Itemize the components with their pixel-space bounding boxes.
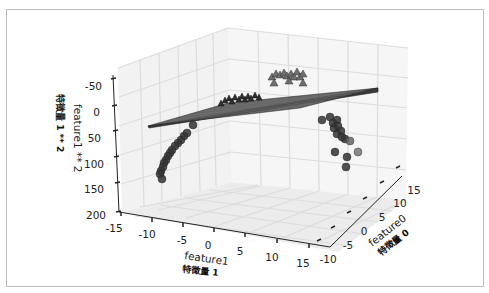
svg-text:0: 0 bbox=[361, 225, 368, 237]
svg-text:200: 200 bbox=[86, 209, 106, 221]
svg-text:0: 0 bbox=[205, 239, 212, 251]
back-panes bbox=[118, 28, 408, 252]
svg-text:0: 0 bbox=[93, 106, 100, 118]
plot-3d: -50 0 50 100 150 200 feature1 ** 2 特徴量 1… bbox=[0, 0, 489, 293]
svg-text:10: 10 bbox=[393, 197, 406, 209]
svg-text:15: 15 bbox=[296, 257, 309, 269]
svg-text:50: 50 bbox=[88, 132, 101, 144]
z-axis-label: feature1 ** 2 bbox=[72, 104, 84, 172]
svg-text:-50: -50 bbox=[85, 80, 102, 92]
svg-text:-5: -5 bbox=[343, 239, 353, 251]
svg-text:-5: -5 bbox=[177, 234, 187, 246]
svg-text:10: 10 bbox=[265, 251, 278, 263]
svg-text:5: 5 bbox=[379, 211, 386, 223]
svg-text:-10: -10 bbox=[138, 228, 155, 240]
svg-text:15: 15 bbox=[407, 184, 420, 196]
svg-text:5: 5 bbox=[237, 245, 244, 257]
svg-text:-15: -15 bbox=[105, 222, 122, 234]
z-axis-label-sub: 特徴量 1 ** 2 bbox=[55, 94, 66, 152]
z-axis: -50 0 50 100 150 200 feature1 ** 2 特徴量 1… bbox=[55, 75, 121, 221]
x-axis-label-sub: 特徴量 1 bbox=[182, 263, 219, 278]
svg-text:100: 100 bbox=[84, 158, 104, 170]
svg-text:150: 150 bbox=[84, 183, 104, 195]
svg-text:-10: -10 bbox=[319, 253, 336, 265]
